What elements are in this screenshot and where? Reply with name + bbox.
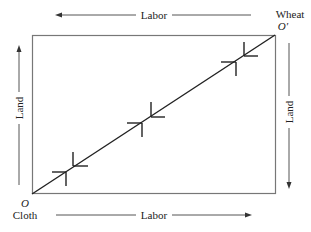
edgeworth-box-diagram: Labor Labor Land Land O Cloth Wheat O′ [0, 0, 311, 232]
left-land-label: Land [13, 96, 25, 119]
wheat-label: Wheat [276, 8, 305, 20]
bottom-labor-label: Labor [141, 209, 168, 221]
origin-o-label: O [21, 197, 29, 209]
origin-o-prime-label: O′ [278, 20, 289, 32]
left-arrowhead-icon [55, 13, 62, 18]
down-arrowhead-icon [287, 182, 292, 189]
contract-curve [32, 35, 275, 194]
right-land-label: Land [283, 100, 295, 123]
cloth-label: Cloth [13, 209, 38, 221]
up-arrowhead-icon [17, 45, 22, 52]
right-arrowhead-icon [245, 213, 252, 218]
top-labor-label: Labor [141, 9, 168, 21]
